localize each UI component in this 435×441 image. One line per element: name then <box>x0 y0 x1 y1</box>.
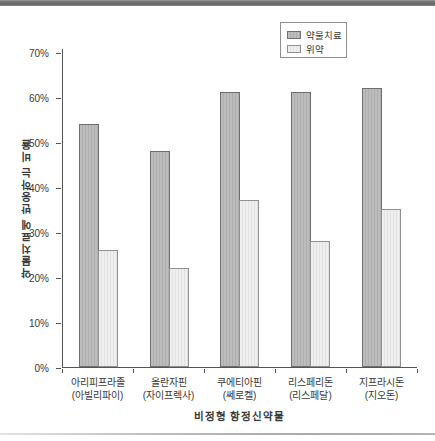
x-category-name-0: 아리피프라졸 <box>62 376 133 389</box>
bar-group-4 <box>346 49 417 367</box>
bar-groups <box>63 49 417 367</box>
y-axis-ticks: 0%10%20%30%40%50%60%70% <box>0 49 62 368</box>
bar-group-0 <box>63 49 134 367</box>
y-tick-mark-60 <box>56 98 61 99</box>
bar-group-3 <box>275 49 346 367</box>
drug-treatment-bar-3 <box>291 92 311 367</box>
page-top-border <box>0 0 435 6</box>
x-tick-mark-2 <box>204 369 205 373</box>
y-tick-label-30: 30% <box>29 228 49 239</box>
x-category-label-3: 리스페리돈(리스페달) <box>275 376 346 402</box>
x-category-name-3: 리스페리돈 <box>275 376 346 389</box>
x-category-brand-0: (아빌리파이) <box>62 389 133 402</box>
x-axis-title: 비정형 항정신약물 <box>62 408 417 423</box>
scanned-page: 약물치료 위약 약물치료에 반응하는 비율 0%10%20%30%40%50%6… <box>0 0 435 441</box>
bar-group-2 <box>205 49 276 367</box>
legend-item-drug-treatment: 약물치료 <box>287 28 346 42</box>
x-category-label-2: 쿠에티아핀(쎄로켈) <box>204 376 275 402</box>
x-tick-mark-5 <box>417 369 418 373</box>
x-category-brand-3: (리스페달) <box>275 389 346 402</box>
y-tick-mark-20 <box>56 278 61 279</box>
drug-treatment-bar-4 <box>362 88 382 367</box>
legend-swatch-drug-treatment <box>287 31 301 39</box>
placebo-bar-3 <box>310 241 330 367</box>
x-category-brand-4: (지오돈) <box>346 389 417 402</box>
y-tick-mark-50 <box>56 143 61 144</box>
y-tick-mark-70 <box>56 53 61 54</box>
x-category-label-0: 아리피프라졸(아빌리파이) <box>62 376 133 402</box>
placebo-bar-2 <box>239 200 259 367</box>
y-tick-label-70: 70% <box>29 48 49 59</box>
y-tick-label-60: 60% <box>29 93 49 104</box>
y-tick-mark-40 <box>56 188 61 189</box>
x-category-name-2: 쿠에티아핀 <box>204 376 275 389</box>
x-tick-mark-4 <box>346 369 347 373</box>
x-category-brand-1: (자이프렉사) <box>133 389 204 402</box>
bar-group-1 <box>134 49 205 367</box>
x-category-label-4: 지프라시돈(지오돈) <box>346 376 417 402</box>
plot-area <box>62 49 417 368</box>
y-tick-label-0: 0% <box>35 363 49 374</box>
x-axis-ticks <box>62 369 417 374</box>
page-bottom-border <box>0 433 435 435</box>
drug-treatment-bar-2 <box>220 92 240 367</box>
y-tick-mark-30 <box>56 233 61 234</box>
y-tick-label-40: 40% <box>29 183 49 194</box>
legend-label-drug-treatment: 약물치료 <box>306 28 342 42</box>
y-tick-mark-10 <box>56 323 61 324</box>
drug-treatment-bar-1 <box>150 151 170 367</box>
x-axis-category-labels: 아리피프라졸(아빌리파이)올란자핀(자이프렉사)쿠에티아핀(쎄로켈)리스페리돈(… <box>62 376 417 402</box>
x-tick-mark-3 <box>275 369 276 373</box>
placebo-bar-0 <box>98 250 118 367</box>
drug-treatment-bar-0 <box>79 124 99 367</box>
x-category-name-1: 올란자핀 <box>133 376 204 389</box>
x-tick-mark-1 <box>133 369 134 373</box>
placebo-bar-4 <box>381 209 401 367</box>
y-tick-label-20: 20% <box>29 273 49 284</box>
placebo-bar-1 <box>169 268 189 367</box>
x-category-label-1: 올란자핀(자이프렉사) <box>133 376 204 402</box>
y-tick-label-10: 10% <box>29 318 49 329</box>
x-tick-mark-0 <box>62 369 63 373</box>
y-tick-label-50: 50% <box>29 138 49 149</box>
x-category-name-4: 지프라시돈 <box>346 376 417 389</box>
x-category-brand-2: (쎄로켈) <box>204 389 275 402</box>
y-tick-mark-0 <box>56 368 61 369</box>
